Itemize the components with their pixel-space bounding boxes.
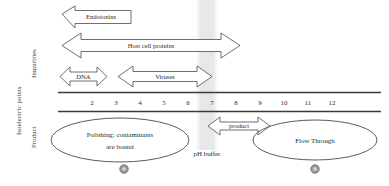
ph-tick-11: 11 <box>305 99 312 107</box>
ph-tick-3: 3 <box>114 99 118 107</box>
arrow-endotoxins: Endotoxins <box>62 6 131 28</box>
marker-right <box>311 165 319 173</box>
ph-tick-8: 8 <box>234 99 238 107</box>
arrow-label-endotoxins: Endotoxins <box>86 13 116 20</box>
ph-tick-10: 10 <box>281 99 289 107</box>
ph-tick-6: 6 <box>186 99 190 107</box>
arrow-label-viruses: Viruses <box>155 73 175 80</box>
arrow-label-product: product <box>229 122 249 129</box>
diagram-svg: Endotoxins Host cell proteins DNA Viruse… <box>0 0 389 186</box>
ph-tick-9: 9 <box>258 99 262 107</box>
arrow-label-host-cell-proteins: Host cell proteins <box>128 42 175 49</box>
arrow-viruses: Viruses <box>118 66 212 87</box>
mode-label-polishing-line2: are bound <box>106 143 134 150</box>
arrow-dna: DNA <box>60 67 107 86</box>
ph-tick-5: 5 <box>162 99 166 107</box>
ph-tick-4: 4 <box>138 99 142 107</box>
ph-scale-ticks: 23456789101112 <box>90 99 336 107</box>
ph-tick-12: 12 <box>329 99 337 107</box>
diagram-canvas: Isoelectric points Impurities Product En… <box>0 0 389 186</box>
mode-ellipse-polishing: Polishing: contaminants are bound <box>51 118 189 162</box>
marker-left <box>120 165 128 173</box>
ph-tick-7: 7 <box>210 99 214 107</box>
arrow-label-dna: DNA <box>76 73 91 80</box>
mode-label-polishing-line1: Polishing: contaminants <box>87 131 154 138</box>
ph-tick-2: 2 <box>90 99 94 107</box>
mode-ellipse-flow-through: Flow Through <box>253 120 377 160</box>
ph-buffer-label: pH buffer <box>194 150 222 157</box>
mode-label-flow-through: Flow Through <box>295 137 335 144</box>
